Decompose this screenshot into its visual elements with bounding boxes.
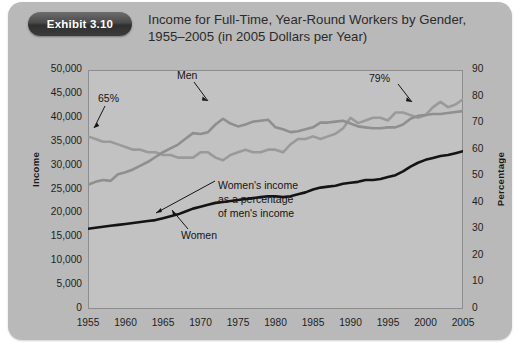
y-axis-left-tick: 20,000	[36, 206, 82, 217]
x-axis-tick: 1960	[106, 317, 146, 328]
x-axis-tick: 1970	[181, 317, 221, 328]
y-axis-right-tick: 60	[472, 143, 498, 154]
callout-women: Women	[181, 229, 217, 242]
exhibit-card: Exhibit 3.10 Income for Full-Time, Year-…	[8, 2, 512, 340]
y-axis-left-tick: 10,000	[36, 254, 82, 265]
y-axis-right-tick: 50	[472, 169, 498, 180]
y-axis-right-tick: 0	[472, 302, 498, 313]
callout-women-pct-line-2: as a percentage	[218, 192, 298, 206]
y-axis-right-tick: 40	[472, 196, 498, 207]
callout-pct-start: 65%	[98, 92, 119, 105]
y-axis-right-tick: 70	[472, 116, 498, 127]
x-axis-tick: 1980	[256, 317, 296, 328]
x-axis-tick: 1965	[143, 317, 183, 328]
x-axis-tick: 1985	[293, 317, 333, 328]
page-title: Income for Full-Time, Year-Round Workers…	[148, 11, 498, 45]
y-axis-left-tick: 50,000	[36, 63, 82, 74]
y-axis-right-tick: 20	[472, 249, 498, 260]
line-ratio-series	[88, 99, 463, 160]
y-axis-left-tick: 45,000	[36, 87, 82, 98]
y-axis-left-tick: 25,000	[36, 183, 82, 194]
callout-women-pct-line-1: Women's income	[218, 178, 298, 192]
exhibit-badge-label: Exhibit 3.10	[47, 18, 113, 30]
chart-plot: 65% 79% Men Women Women's income as a pe…	[88, 70, 463, 309]
callout-women-pct: Women's income as a percentage of men's …	[218, 178, 298, 220]
x-axis-tick: 1955	[68, 317, 108, 328]
y-axis-left-tick: 40,000	[36, 111, 82, 122]
y-axis-right-tick: 90	[472, 63, 498, 74]
exhibit-badge: Exhibit 3.10	[28, 12, 132, 36]
y-axis-right-tick: 80	[472, 90, 498, 101]
x-axis-tick: 2000	[406, 317, 446, 328]
callout-pct-end: 79%	[369, 72, 390, 85]
callout-men: Men	[177, 69, 197, 82]
x-axis-tick: 2005	[443, 317, 483, 328]
y-axis-left-tick: 0	[36, 302, 82, 313]
y-axis-right-tick: 10	[472, 275, 498, 286]
title-line-2: 1955–2005 (in 2005 Dollars per Year)	[148, 28, 498, 45]
y-axis-right-tick: 30	[472, 222, 498, 233]
y-axis-left-tick: 35,000	[36, 135, 82, 146]
y-axis-left-tick: 5,000	[36, 278, 82, 289]
x-axis-tick: 1975	[218, 317, 258, 328]
x-axis-tick: 1995	[368, 317, 408, 328]
y-axis-left-tick: 30,000	[36, 159, 82, 170]
callout-women-pct-line-3: of men's income	[218, 206, 298, 220]
y-axis-left-tick: 15,000	[36, 230, 82, 241]
x-axis-tick: 1990	[331, 317, 371, 328]
title-line-1: Income for Full-Time, Year-Round Workers…	[148, 12, 466, 27]
line-men-series	[88, 111, 463, 185]
